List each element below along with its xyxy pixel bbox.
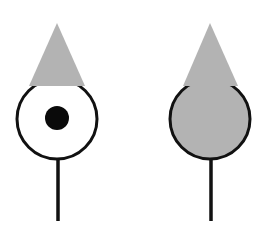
right-figure [170, 23, 250, 221]
left-figure [17, 23, 97, 221]
diagram-svg [0, 0, 271, 242]
left-triangle [29, 23, 85, 86]
left-center-dot [45, 106, 69, 130]
right-triangle [183, 23, 238, 86]
right-circle [170, 79, 250, 159]
diagram-canvas [0, 0, 271, 242]
